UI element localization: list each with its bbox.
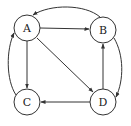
edge-a-to-d — [37, 38, 93, 92]
node-b: B — [90, 17, 116, 43]
edge-c-to-a — [8, 33, 16, 95]
edge-b-to-a — [33, 7, 100, 17]
edge-b-to-d — [114, 38, 122, 97]
node-d: D — [90, 89, 116, 115]
node-d-label: D — [99, 96, 108, 109]
node-a-label: A — [22, 22, 32, 35]
node-c-label: C — [23, 96, 31, 109]
node-c: C — [14, 89, 40, 115]
directed-graph: A B C D — [0, 0, 131, 126]
node-b-label: B — [99, 24, 107, 37]
node-a: A — [14, 15, 40, 41]
edge-a-to-b — [40, 28, 89, 29]
